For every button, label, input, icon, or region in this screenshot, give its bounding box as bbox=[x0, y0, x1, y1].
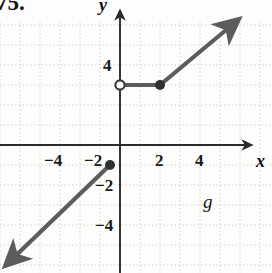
x-tick-label-neg2: −2 bbox=[84, 152, 102, 169]
x-tick-label-neg4: −4 bbox=[44, 152, 62, 169]
x-axis-label: x bbox=[256, 152, 265, 170]
x-tick-label-4: 4 bbox=[195, 152, 204, 169]
y-axis-label: y bbox=[99, 0, 107, 14]
y-tick-label-neg4: −4 bbox=[95, 217, 113, 234]
closed-point-right bbox=[155, 80, 165, 90]
curve-label-g: g bbox=[203, 192, 213, 211]
y-tick-label-4: 4 bbox=[103, 57, 112, 74]
open-point-origin bbox=[115, 80, 124, 89]
coordinate-plane bbox=[0, 0, 272, 273]
y-tick-label-neg2: −2 bbox=[95, 177, 113, 194]
curve-segment-right-ray bbox=[160, 20, 238, 85]
graph-figure: 75. bbox=[0, 0, 272, 273]
x-tick-label-2: 2 bbox=[155, 152, 164, 169]
closed-point-left bbox=[105, 160, 115, 170]
